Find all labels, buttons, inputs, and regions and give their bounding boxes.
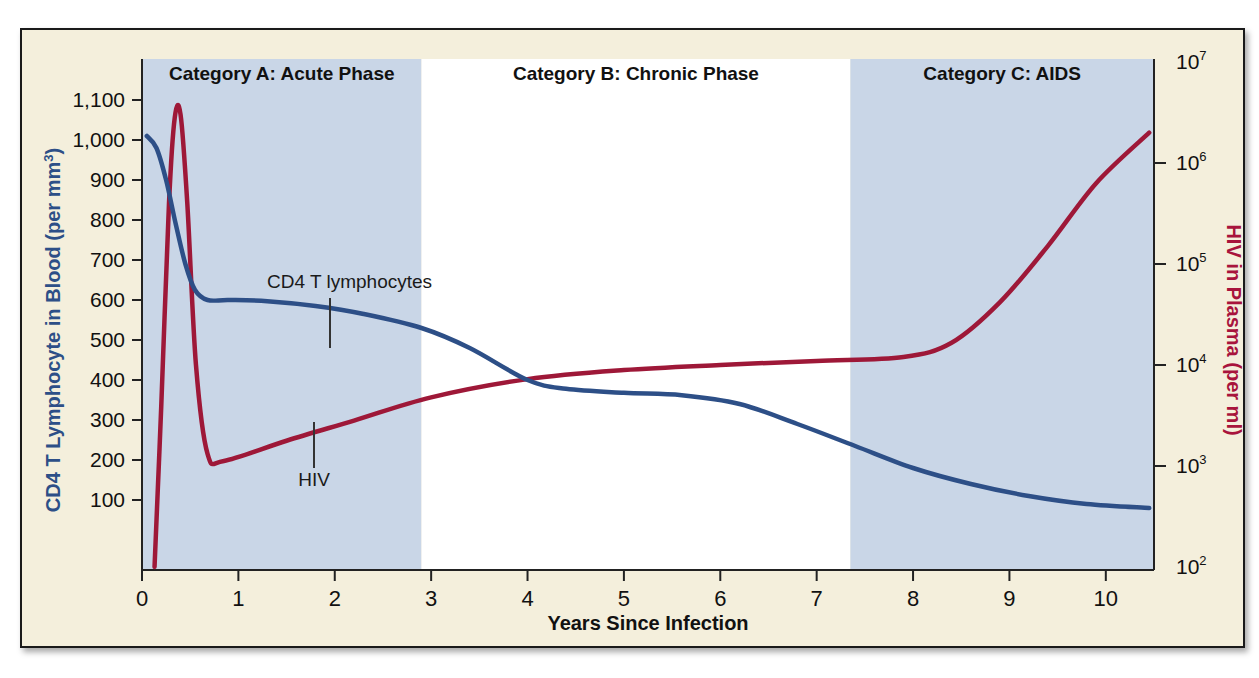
x-tick-label: 3 — [425, 586, 437, 611]
hiv-annotation-label: HIV — [298, 469, 330, 490]
x-tick-label: 10 — [1094, 586, 1118, 611]
left-axis-ticks: 1,1001,000900800700600500400300200100 — [72, 88, 142, 511]
left-tick-label: 1,000 — [72, 128, 125, 151]
x-tick-label: 0 — [136, 586, 148, 611]
left-tick-label: 300 — [90, 408, 125, 431]
x-axis-ticks: 012345678910 — [136, 570, 1118, 611]
left-tick-label: 400 — [90, 368, 125, 391]
x-tick-label: 2 — [329, 586, 341, 611]
left-tick-label: 700 — [90, 248, 125, 271]
category-header-a: Category A: Acute Phase — [169, 63, 395, 84]
right-tick-label: 107 — [1176, 48, 1207, 73]
left-tick-label: 1,100 — [72, 88, 125, 111]
category-header-b: Category B: Chronic Phase — [513, 63, 759, 84]
hiv-cd4-timecourse-chart: 1,1001,000900800700600500400300200100 10… — [22, 30, 1243, 646]
right-axis-title: HIV in Plasma (per ml) — [1223, 224, 1243, 435]
left-tick-label: 900 — [90, 168, 125, 191]
band-category-c — [850, 59, 1154, 570]
x-tick-label: 6 — [714, 586, 726, 611]
x-tick-label: 1 — [232, 586, 244, 611]
cd4-annotation-label: CD4 T lymphocytes — [267, 271, 432, 292]
figure-stage: 1,1001,000900800700600500400300200100 10… — [0, 0, 1259, 678]
left-axis-title: CD4 T Lymphocyte in Blood (per mm3) — [41, 148, 64, 512]
x-tick-label: 7 — [811, 586, 823, 611]
x-tick-label: 8 — [907, 586, 919, 611]
right-tick-label: 105 — [1176, 250, 1207, 275]
right-tick-label: 102 — [1176, 553, 1207, 578]
x-axis-title: Years Since Infection — [547, 612, 748, 634]
figure-frame: 1,1001,000900800700600500400300200100 10… — [20, 28, 1245, 648]
left-tick-label: 200 — [90, 448, 125, 471]
left-tick-label: 800 — [90, 208, 125, 231]
x-tick-label: 5 — [618, 586, 630, 611]
left-tick-label: 600 — [90, 288, 125, 311]
right-tick-label: 103 — [1176, 452, 1207, 477]
left-tick-label: 100 — [90, 488, 125, 511]
x-tick-label: 9 — [1003, 586, 1015, 611]
category-header-c: Category C: AIDS — [923, 63, 1081, 84]
left-tick-label: 500 — [90, 328, 125, 351]
right-axis-ticks: 107106105104103102 — [1154, 48, 1207, 578]
category-bands — [142, 59, 1154, 570]
band-category-b — [422, 59, 851, 570]
category-header-labels: Category A: Acute PhaseCategory B: Chron… — [169, 63, 1081, 84]
x-tick-label: 4 — [521, 586, 533, 611]
right-tick-label: 104 — [1176, 351, 1207, 376]
right-tick-label: 106 — [1176, 149, 1207, 174]
